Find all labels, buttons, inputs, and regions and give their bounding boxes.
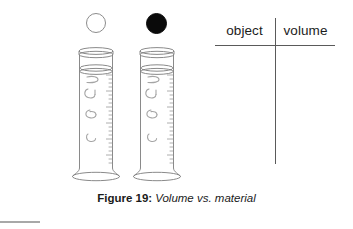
caption-label: Figure 19: xyxy=(97,192,152,204)
graduated-cylinder-left xyxy=(70,44,122,184)
data-table: object volume xyxy=(214,18,336,166)
solid-sphere-icon xyxy=(146,13,167,34)
bottom-left-rule xyxy=(0,221,40,223)
figure-caption: Figure 19:Volume vs. material xyxy=(0,192,353,205)
hollow-sphere-icon xyxy=(86,13,106,33)
column-header-object: object xyxy=(214,18,275,44)
graduated-cylinder-right xyxy=(131,44,183,184)
column-header-volume: volume xyxy=(275,18,336,44)
table-column-divider xyxy=(275,18,276,164)
caption-title: Volume vs. material xyxy=(152,192,256,204)
figure-volume-vs-material: object volume Figure 19:Volume vs. mater… xyxy=(0,0,353,229)
